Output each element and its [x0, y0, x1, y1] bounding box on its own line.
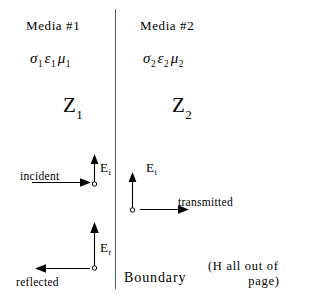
transmitted-field-label: Et: [146, 160, 159, 177]
transmitted-label: transmitted: [178, 196, 233, 208]
reflected-field-symbol: E: [100, 240, 108, 255]
media-1-epsilon-subscript: 1: [50, 59, 57, 69]
origin-dot-icon: [92, 266, 96, 270]
media-2-sigma-subscript: 2: [150, 59, 157, 69]
media-2-epsilon-subscript: 2: [163, 59, 170, 69]
transmitted-field-subscript: t: [154, 167, 159, 177]
transmitted-field-symbol: E: [146, 160, 154, 175]
incident-field-label: Ei: [100, 160, 113, 177]
h-field-note: (H all out of page): [208, 259, 320, 289]
media-1-impedance: Z1: [63, 93, 85, 123]
media-2-impedance-subscript: 2: [185, 107, 194, 122]
origin-dot-icon: [130, 208, 134, 212]
media-2-impedance: Z2: [172, 93, 194, 123]
incident-field-symbol: E: [100, 160, 108, 175]
reflected-field-subscript: r: [108, 247, 113, 257]
transmitted-field-arrow: [126, 172, 140, 212]
media-1-mu-subscript: 1: [65, 59, 72, 69]
reflected-propagation-arrow: [35, 263, 92, 274]
h-field-note-line-2: page): [208, 274, 320, 289]
em-boundary-diagram: Media #1 σ1ε1μ1 Z1 Media #2 σ2ε2μ2 Z2 in…: [0, 0, 326, 297]
h-field-note-line-1: (H all out of: [208, 259, 320, 274]
arrow-up-head-icon: [129, 172, 137, 182]
arrow-up-head-icon: [90, 222, 99, 233]
media-1-sigma-subscript: 1: [37, 59, 44, 69]
media-1-impedance-subscript: 1: [76, 107, 85, 122]
media-1-impedance-symbol: Z: [63, 93, 76, 117]
boundary-divider-line: [115, 9, 116, 289]
arrow-up-head-icon: [91, 154, 99, 164]
boundary-label: Boundary: [124, 270, 186, 286]
reflected-field-label: Er: [100, 240, 113, 257]
media-2-parameters: σ2ε2μ2: [143, 50, 185, 69]
reflected-label: reflected: [16, 276, 59, 288]
incident-field-subscript: i: [108, 167, 113, 177]
media-1-title: Media #1: [26, 18, 80, 34]
arrow-left-head-icon: [35, 264, 46, 272]
media-2-title: Media #2: [140, 18, 194, 34]
media-1-parameters: σ1ε1μ1: [30, 50, 72, 69]
arrow-right-head-icon: [80, 178, 91, 186]
media-2-impedance-symbol: Z: [172, 93, 185, 117]
origin-dot-icon: [92, 182, 96, 186]
incident-propagation-arrow: [32, 177, 92, 188]
media-2-mu-subscript: 2: [178, 59, 185, 69]
